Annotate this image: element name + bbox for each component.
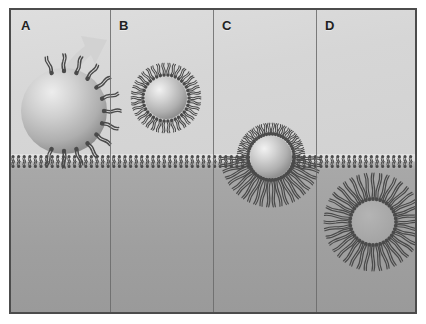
figure-panel-container: A B C D (9, 8, 417, 314)
panel-label-b: B (119, 18, 129, 33)
panel-label-a: A (21, 18, 31, 33)
panel-label-d: D (325, 18, 335, 33)
panel-divider-cd (316, 10, 317, 312)
panel-divider-bc (213, 10, 214, 312)
panel-label-c: C (222, 18, 232, 33)
panel-divider-ab (110, 10, 111, 312)
